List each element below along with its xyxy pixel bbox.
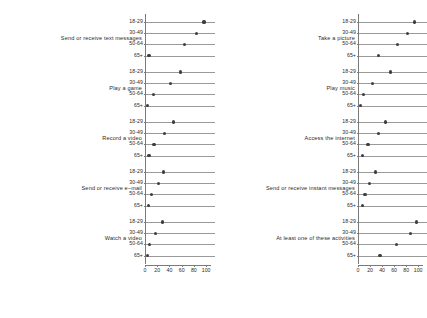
y-axis-tick-label: 50-64 <box>342 42 356 47</box>
data-point <box>359 104 362 107</box>
y-axis-tick-label: 50-64 <box>129 192 143 197</box>
panel-watch-a-video: Watch a video18-2930-4950-6465+ <box>0 214 213 264</box>
gridline <box>146 94 215 95</box>
x-axis-tick-label: 40 <box>167 268 173 273</box>
y-axis-tick-label: 65+ <box>134 103 143 108</box>
data-point <box>147 204 150 207</box>
data-point <box>384 120 387 123</box>
y-axis-tick <box>357 256 360 257</box>
y-axis-tick-label: 18-29 <box>129 169 143 174</box>
x-axis-line <box>358 265 423 266</box>
y-axis-tick <box>144 33 147 34</box>
y-axis-tick-label: 65+ <box>347 253 356 258</box>
y-axis-tick <box>357 144 360 145</box>
gridline <box>146 144 215 145</box>
data-point <box>202 20 205 23</box>
y-axis-tick-label: 30-49 <box>342 81 356 86</box>
data-point <box>179 70 182 73</box>
x-axis: 020406080100 <box>358 265 423 279</box>
y-axis-tick-label: 50-64 <box>342 142 356 147</box>
panel-take-a-picture: Take a picture18-2930-4950-6465+ <box>213 14 425 64</box>
y-axis-tick-label: 50-64 <box>342 192 356 197</box>
y-axis-tick <box>144 156 147 157</box>
x-axis-tick-label: 60 <box>179 268 185 273</box>
y-axis-tick-label: 50-64 <box>129 42 143 47</box>
gridline <box>146 133 215 134</box>
gridline <box>359 83 427 84</box>
y-axis-tick <box>357 33 360 34</box>
data-point <box>146 104 149 107</box>
gridline <box>359 194 427 195</box>
data-point <box>377 132 380 135</box>
panel-column-right: Take a picture18-2930-4950-6465+Play mus… <box>213 0 425 318</box>
y-axis-tick <box>357 94 360 95</box>
y-axis-tick-label: 50-64 <box>129 242 143 247</box>
y-axis-tick <box>144 194 147 195</box>
data-point <box>162 170 165 173</box>
y-axis-tick-label: 18-29 <box>342 119 356 124</box>
gridline <box>359 206 427 207</box>
y-axis-tick <box>357 133 360 134</box>
y-axis-tick <box>144 183 147 184</box>
panel-record-a-video: Record a video18-2930-4950-6465+ <box>0 114 213 164</box>
y-axis-tick-label: 18-29 <box>129 219 143 224</box>
panel-access-the-internet: Access the internet18-2930-4950-6465+ <box>213 114 425 164</box>
gridline <box>146 206 215 207</box>
data-point <box>389 70 392 73</box>
data-point <box>366 143 369 146</box>
gridline <box>146 156 215 157</box>
data-point <box>361 204 364 207</box>
data-point <box>406 32 409 35</box>
gridline <box>359 33 427 34</box>
panel-column-left: Send or receive text messages18-2930-495… <box>0 0 213 318</box>
gridline <box>359 56 427 57</box>
y-axis-tick-label: 50-64 <box>129 142 143 147</box>
data-point <box>147 154 150 157</box>
data-point <box>409 232 412 235</box>
y-axis-tick <box>357 44 360 45</box>
gridline <box>359 233 427 234</box>
x-axis-tick-label: 20 <box>154 268 160 273</box>
panel-play-music: Play music18-2930-4950-6465+ <box>213 64 425 114</box>
x-axis-tick-label: 100 <box>202 268 211 273</box>
y-axis-tick-label: 30-49 <box>342 131 356 136</box>
y-axis-tick <box>144 122 147 123</box>
panel-send-or-receive-e-mail: Send or receive e–mail18-2930-4950-6465+ <box>0 164 213 214</box>
data-point <box>183 43 186 46</box>
y-axis-tick-label: 30-49 <box>129 181 143 186</box>
data-point <box>150 193 153 196</box>
y-axis-tick-label: 30-49 <box>342 231 356 236</box>
gridline <box>359 244 427 245</box>
data-point <box>163 132 166 135</box>
data-point <box>148 243 151 246</box>
x-axis-tick-label: 80 <box>403 268 409 273</box>
y-axis-tick-label: 30-49 <box>129 31 143 36</box>
y-axis-tick <box>144 222 147 223</box>
gridline <box>146 172 215 173</box>
plot-area: 18-2930-4950-6465+ <box>145 64 215 114</box>
y-axis-tick <box>144 133 147 134</box>
x-axis-tick-label: 20 <box>367 268 373 273</box>
y-axis-tick-label: 65+ <box>134 53 143 58</box>
y-axis-tick-label: 30-49 <box>342 181 356 186</box>
gridline <box>146 33 215 34</box>
gridline <box>359 256 427 257</box>
gridline <box>359 122 427 123</box>
y-axis-tick <box>144 244 147 245</box>
y-axis-tick-label: 50-64 <box>129 92 143 97</box>
data-point <box>378 254 381 257</box>
data-point <box>361 154 364 157</box>
y-axis-tick <box>144 94 147 95</box>
plot-area: 18-2930-4950-6465+ <box>358 14 427 64</box>
y-axis-tick <box>357 244 360 245</box>
y-axis-tick-label: 65+ <box>347 203 356 208</box>
gridline <box>359 133 427 134</box>
y-axis-tick-label: 65+ <box>134 203 143 208</box>
y-axis-tick-label: 18-29 <box>342 169 356 174</box>
x-axis-tick-label: 60 <box>391 268 397 273</box>
y-axis-tick <box>357 233 360 234</box>
gridline <box>146 44 215 45</box>
x-axis-line <box>145 265 211 266</box>
y-axis-tick <box>144 83 147 84</box>
y-axis-tick-label: 18-29 <box>342 219 356 224</box>
